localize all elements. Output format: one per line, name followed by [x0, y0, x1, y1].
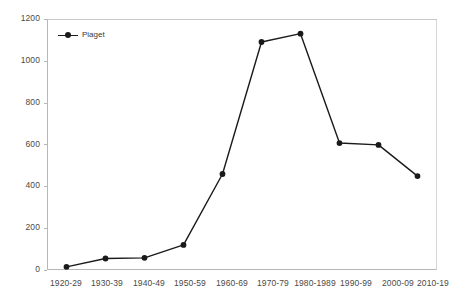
legend: Piaget [58, 29, 105, 41]
line-chart: 1200 1000 800 600 400 200 0 1920-29 1930… [0, 0, 459, 300]
x-tick-label: 2010-19 [417, 278, 449, 288]
x-tick-label: 2000-09 [382, 278, 414, 288]
y-tick-label: 1200 [21, 14, 40, 23]
x-tick-label: 1930-39 [91, 278, 123, 288]
x-tick-label: 1990-99 [340, 278, 372, 288]
y-tick-label: 400 [26, 181, 40, 190]
x-tick-label: 1980-1989 [294, 278, 336, 288]
y-tick-mark [44, 61, 47, 62]
y-tick-mark [44, 144, 47, 145]
y-tick-mark [44, 19, 47, 20]
x-tick-label: 1940-49 [133, 278, 165, 288]
x-tick-label: 1970-79 [257, 278, 289, 288]
y-tick-label: 1000 [21, 56, 40, 65]
x-tick-label: 1960-69 [216, 278, 248, 288]
y-tick-mark [44, 270, 47, 271]
y-tick-mark [44, 186, 47, 187]
y-tick-label: 600 [26, 140, 40, 149]
y-tick-mark [44, 228, 47, 229]
y-tick-label: 800 [26, 98, 40, 107]
x-tick-label: 1920-29 [50, 278, 82, 288]
y-tick-mark [44, 103, 47, 104]
legend-marker-icon [58, 30, 78, 40]
y-tick-label: 200 [26, 223, 40, 232]
plot-area [47, 19, 437, 270]
y-tick-label: 0 [35, 265, 40, 274]
legend-label: Piaget [82, 30, 105, 40]
x-tick-label: 1950-59 [174, 278, 206, 288]
y-axis: 1200 1000 800 600 400 200 0 [0, 0, 45, 300]
